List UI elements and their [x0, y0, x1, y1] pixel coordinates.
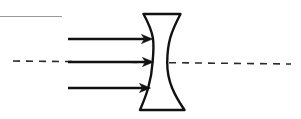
optics-figure: Diverging (biconcave) lens with parallel… [0, 0, 301, 119]
ray-diagram-canvas: Diverging (biconcave) lens with parallel… [0, 0, 301, 119]
